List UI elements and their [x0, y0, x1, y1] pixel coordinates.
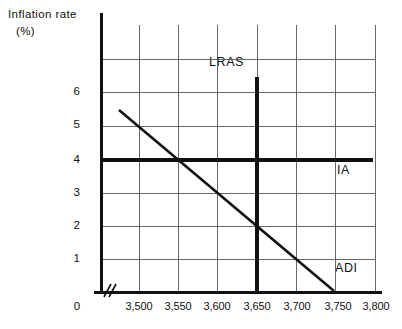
plot-area: [0, 0, 402, 329]
inflation-rate-chart: Inflation rate (%) 6 5 4 3 2 1 0 3,500 3…: [0, 0, 402, 329]
adi-curve: [119, 110, 334, 291]
